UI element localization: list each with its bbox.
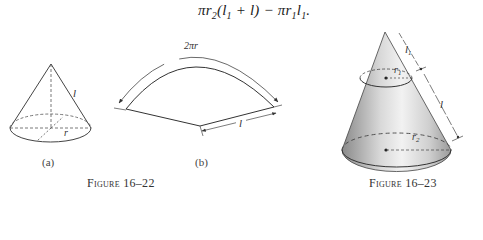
figure-16-23-cone: r1 r2 l1 l	[342, 32, 463, 172]
sector-radius-label: l	[239, 117, 242, 129]
radius-label: r	[64, 127, 68, 138]
arc-length-label: 2πr	[184, 40, 198, 51]
part-b-label: (b)	[195, 156, 208, 169]
slant-label: l	[73, 87, 76, 99]
l-label: l	[440, 98, 443, 110]
figure-16-23-caption: Figure 16–23	[369, 176, 437, 191]
figure-16-22b-sector: 2πr l (b)	[114, 40, 282, 169]
figure-16-22a-cone: l r (a)	[10, 64, 91, 169]
figure-16-22-caption: Figure 16–22	[87, 176, 155, 191]
l1-label: l1	[405, 43, 412, 57]
part-a-label: (a)	[42, 156, 55, 169]
